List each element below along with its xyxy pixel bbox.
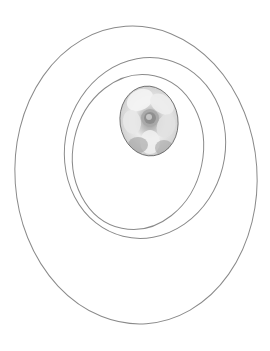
flower-cameo <box>115 82 185 162</box>
outer-ring <box>5 18 267 332</box>
ornament-graphic <box>0 0 270 351</box>
graphic-canvas <box>0 0 270 351</box>
